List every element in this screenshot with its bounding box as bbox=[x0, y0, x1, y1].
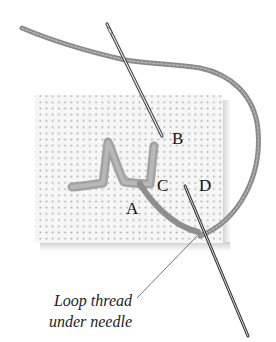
point-label-b: B bbox=[172, 130, 183, 147]
point-label-a: A bbox=[126, 200, 138, 217]
point-label-c: C bbox=[157, 177, 168, 194]
stitch-illustration: B C D A Loop thread under needle bbox=[0, 0, 276, 342]
caption: Loop thread under needle bbox=[20, 290, 132, 332]
point-label-d: D bbox=[199, 177, 211, 194]
caption-line-1: Loop thread bbox=[20, 290, 132, 311]
caption-line-2: under needle bbox=[20, 311, 132, 332]
